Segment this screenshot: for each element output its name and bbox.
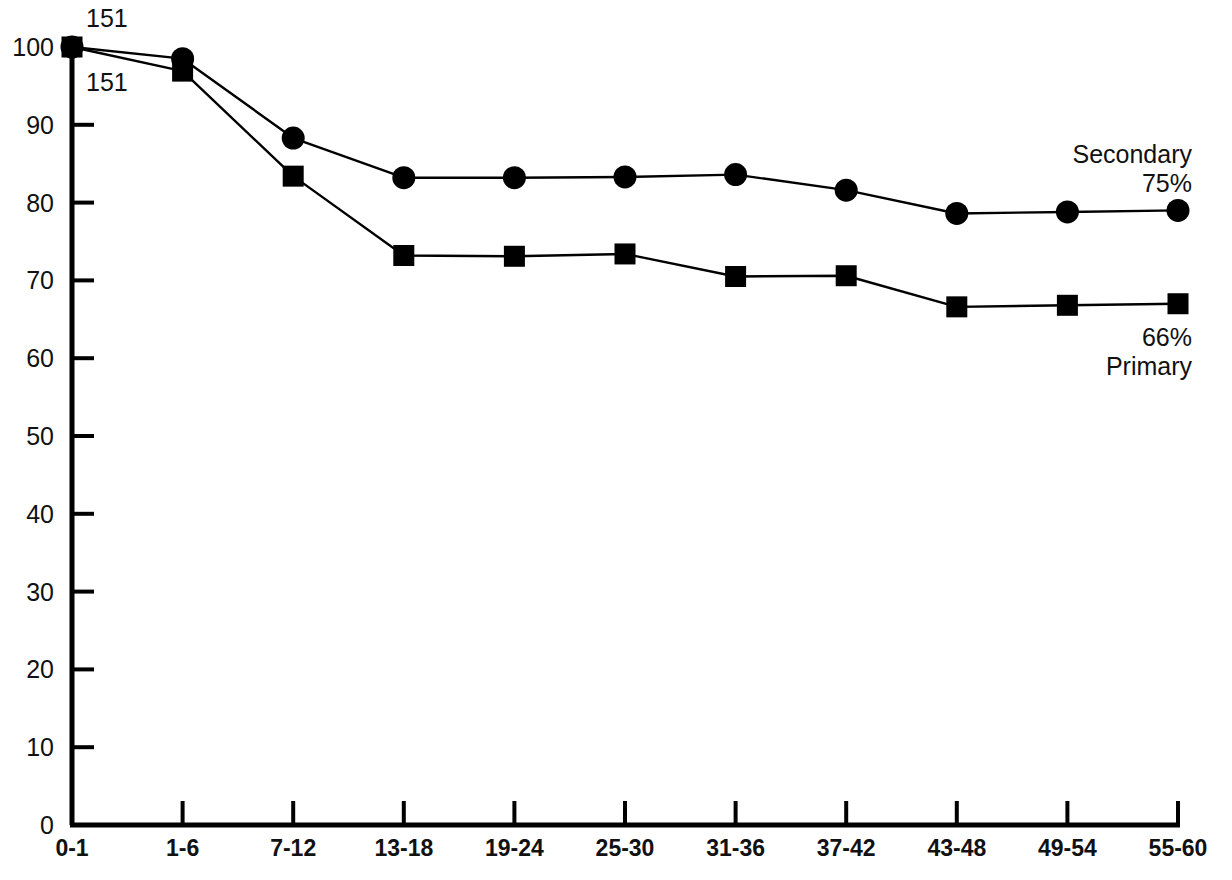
x-tick-label-1-6: 1-6 — [166, 835, 199, 862]
y-tick-label-50: 50 — [0, 422, 54, 451]
data-point-secondary — [614, 165, 637, 188]
x-tick-label-49-54: 49-54 — [1038, 835, 1097, 862]
x-tick-label-25-30: 25-30 — [596, 835, 655, 862]
data-point-secondary — [724, 163, 747, 186]
x-tick-label-43-48: 43-48 — [927, 835, 986, 862]
data-point-secondary — [1167, 199, 1190, 222]
y-tick-label-60: 60 — [0, 344, 54, 373]
data-point-secondary — [945, 202, 968, 225]
line-chart: 0102030405060708090100 0-11-67-1213-1819… — [0, 0, 1232, 880]
data-point-primary — [172, 61, 193, 82]
y-tick-label-30: 30 — [0, 577, 54, 606]
chart-plot-area — [0, 0, 1232, 880]
y-tick-label-80: 80 — [0, 188, 54, 217]
y-tick-label-90: 90 — [0, 110, 54, 139]
series-value-primary: 66% — [972, 323, 1192, 352]
x-tick-label-37-42: 37-42 — [817, 835, 876, 862]
annotation-count-secondary: 151 — [86, 4, 128, 33]
series-label-secondary: Secondary — [972, 140, 1192, 169]
data-point-secondary — [835, 179, 858, 202]
data-point-secondary — [392, 166, 415, 189]
data-point-primary — [725, 266, 746, 287]
data-point-secondary — [503, 166, 526, 189]
data-point-primary — [836, 265, 857, 286]
y-tick-label-100: 100 — [0, 33, 54, 62]
x-tick-label-55-60: 55-60 — [1149, 835, 1208, 862]
data-point-primary — [393, 245, 414, 266]
data-point-primary — [615, 243, 636, 264]
series-value-secondary: 75% — [972, 169, 1192, 198]
y-tick-label-20: 20 — [0, 655, 54, 684]
data-point-primary — [1057, 295, 1078, 316]
x-tick-label-0-1: 0-1 — [55, 835, 88, 862]
data-point-primary — [62, 37, 83, 58]
y-tick-label-40: 40 — [0, 499, 54, 528]
x-tick-label-31-36: 31-36 — [706, 835, 765, 862]
x-tick-label-13-18: 13-18 — [374, 835, 433, 862]
y-tick-label-0: 0 — [0, 811, 54, 840]
y-tick-label-70: 70 — [0, 266, 54, 295]
x-tick-label-19-24: 19-24 — [485, 835, 544, 862]
x-tick-label-7-12: 7-12 — [270, 835, 316, 862]
data-point-primary — [1168, 293, 1189, 314]
data-point-secondary — [282, 127, 305, 150]
y-tick-label-10: 10 — [0, 733, 54, 762]
data-point-primary — [946, 296, 967, 317]
series-label-primary: Primary — [972, 352, 1192, 381]
annotation-count-primary: 151 — [86, 68, 128, 97]
data-point-primary — [283, 166, 304, 187]
data-point-secondary — [1056, 200, 1079, 223]
data-point-primary — [504, 246, 525, 267]
